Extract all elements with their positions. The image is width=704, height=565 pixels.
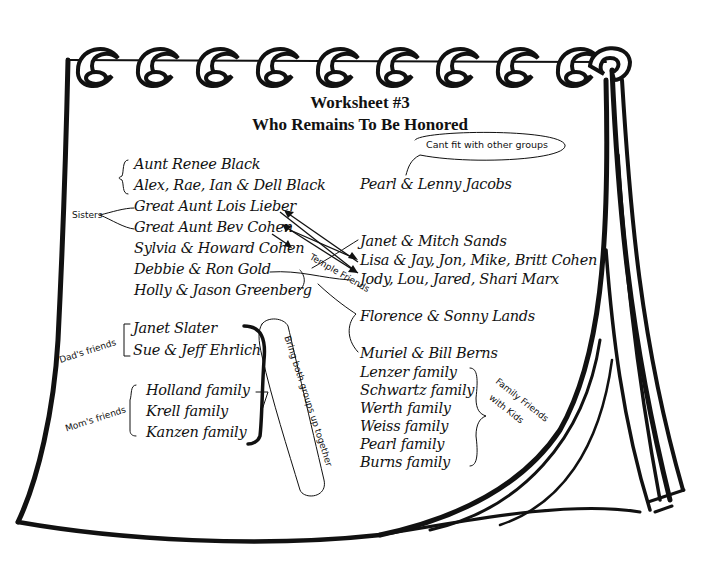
- spiral-ring: [258, 49, 298, 86]
- list-item: Great Aunt Lois Lieber: [134, 198, 296, 214]
- list-item: Janet Slater: [133, 320, 217, 336]
- list-item: Pearl & Lenny Jacobs: [360, 176, 512, 192]
- cant-fit-note: Cant fit with other groups: [426, 139, 548, 150]
- list-item: Alex, Rae, Ian & Dell Black: [134, 177, 325, 193]
- list-item: Schwartz family: [360, 382, 474, 398]
- list-item: Holly & Jason Greenberg: [134, 282, 312, 298]
- list-item: Sylvia & Howard Cohen: [134, 240, 304, 256]
- spiral-ring: [198, 49, 238, 86]
- spiral-ring: [438, 49, 478, 86]
- list-item: Sue & Jeff Ehrlich: [133, 342, 261, 358]
- list-item: Burns family: [360, 454, 450, 470]
- spiral-ring: [498, 49, 538, 86]
- page-stack-edges: [606, 70, 684, 512]
- spiral-ring: [378, 49, 418, 86]
- list-item: Pearl family: [360, 436, 444, 452]
- sisters-label: Sisters: [72, 210, 102, 220]
- worksheet-subtitle: Who Remains To Be Honored: [8, 115, 704, 135]
- list-item: Debbie & Ron Gold: [134, 261, 271, 277]
- list-item: Muriel & Bill Berns: [360, 345, 498, 361]
- list-item: Aunt Renee Black: [134, 156, 260, 172]
- bracket-dads-friends: [124, 324, 130, 356]
- list-item: Jody, Lou, Jared, Shari Marx: [360, 271, 559, 287]
- spiral-ring: [138, 49, 178, 86]
- list-item: Kanzen family: [146, 424, 246, 440]
- list-item: Holland family: [146, 382, 250, 398]
- spiral-binding: [78, 48, 630, 86]
- list-item: Janet & Mitch Sands: [360, 233, 507, 249]
- list-item: Krell family: [146, 403, 228, 419]
- spiral-ring: [78, 49, 118, 86]
- list-item: Lisa & Jay, Jon, Mike, Britt Cohen: [360, 252, 597, 268]
- list-item: Great Aunt Bev Cohen: [134, 219, 293, 235]
- worksheet-title: Worksheet #3: [8, 93, 704, 113]
- bracket-black-family: [119, 160, 128, 194]
- bracket-moms-friends: [130, 385, 136, 436]
- list-item: Werth family: [360, 400, 451, 416]
- list-item: Florence & Sonny Lands: [360, 308, 535, 324]
- list-item: Lenzer family: [360, 364, 457, 380]
- sisters-connector: [100, 208, 134, 229]
- list-item: Weiss family: [360, 418, 448, 434]
- spiral-ring: [318, 49, 358, 86]
